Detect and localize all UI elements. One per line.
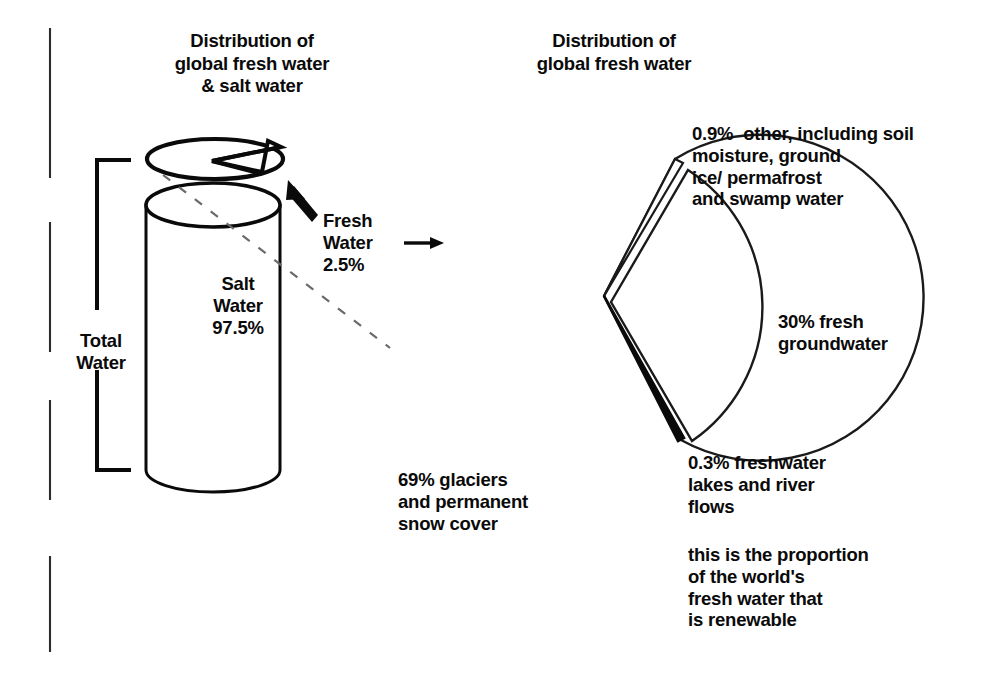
pie-label-lakes: 0.3% freshwater lakes and river flows [688, 452, 938, 517]
total-water-label: Total Water [62, 330, 140, 374]
pie-label-groundwater: 30% fresh groundwater [778, 311, 968, 355]
salt-water-label: Salt Water 97.5% [178, 273, 298, 338]
right-panel-title: Distribution of global fresh water [490, 30, 738, 75]
pie-label-glaciers: 69% glaciers and permanent snow cover [398, 469, 638, 534]
fresh-water-label: Fresh Water 2.5% [323, 210, 415, 275]
cylinder-lid-disc [147, 139, 283, 179]
figure-canvas: Distribution of global fresh water & sal… [0, 0, 982, 679]
fresh-water-callout-arrow [286, 180, 318, 222]
left-panel-title: Distribution of global fresh water & sal… [128, 30, 376, 98]
pie-label-renewable-note: this is the proportion of the world's fr… [688, 544, 938, 631]
total-water-bracket [97, 160, 131, 470]
pie-label-other: 0.9% other, including soil moisture, gro… [692, 123, 978, 210]
